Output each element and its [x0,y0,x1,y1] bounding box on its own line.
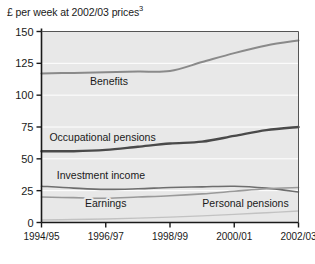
y-tick-label-50: 50 [21,153,33,165]
x-tick-label-1998/99: 1998/99 [152,231,189,242]
x-tick-label-1996/97: 1996/97 [88,231,125,242]
x-axis-ticks: 1994/951996/971998/992000/012002/03 [23,223,315,242]
series-label-personal-pensions: Personal pensions [202,197,288,209]
series-label-occupational-pensions: Occupational pensions [49,131,155,143]
x-tick-label-1994/95: 1994/95 [23,231,60,242]
line-chart-plot: BenefitsBenefitsOccupational pensionsOcc… [0,0,315,264]
x-tick-label-2000/01: 2000/01 [216,231,253,242]
y-axis-ticks: 0255075100125150 [15,26,41,229]
series-label-investment-income: Investment income [57,169,145,181]
series-label-earnings: Earnings [85,197,126,209]
y-tick-label-100: 100 [15,89,33,101]
y-tick-label-125: 125 [15,57,33,69]
chart-container: £ per week at 2002/03 prices3 BenefitsBe… [0,0,315,264]
y-tick-label-25: 25 [21,185,33,197]
x-tick-label-2002/03: 2002/03 [280,231,315,242]
y-tick-label-0: 0 [27,217,33,229]
y-tick-label-150: 150 [15,26,33,38]
y-tick-label-75: 75 [21,121,33,133]
series-label-benefits: Benefits [90,75,128,87]
